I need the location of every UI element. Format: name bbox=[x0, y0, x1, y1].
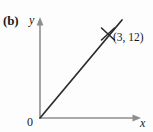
y-axis-arrowhead bbox=[37, 17, 44, 26]
x-axis-group bbox=[40, 115, 141, 122]
figure-panel: (b) y x 0 (3, 12) bbox=[0, 0, 153, 132]
origin-label: 0 bbox=[27, 115, 33, 129]
y-axis-group bbox=[37, 17, 44, 118]
y-axis-label: y bbox=[29, 14, 34, 27]
coordinate-plot bbox=[0, 0, 153, 132]
point-coordinate-label: (3, 12) bbox=[113, 31, 144, 44]
x-axis-label: x bbox=[140, 117, 145, 130]
